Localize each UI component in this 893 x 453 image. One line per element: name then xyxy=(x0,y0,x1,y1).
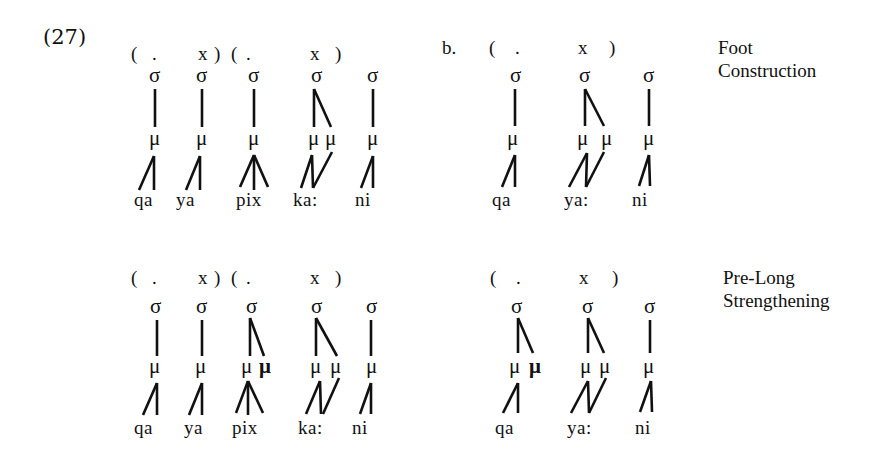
association-lines xyxy=(0,0,893,453)
